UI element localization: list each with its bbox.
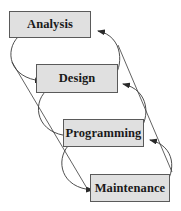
node-label-programming: Programming — [66, 126, 142, 141]
node-label-analysis: Analysis — [27, 17, 73, 32]
boundary-line-right — [118, 45, 172, 172]
forward-arrow-programming-maintenance — [62, 146, 93, 190]
node-maintenance: Maintenance — [90, 174, 170, 202]
node-label-design: Design — [59, 71, 96, 86]
node-label-maintenance: Maintenance — [95, 181, 166, 196]
node-analysis: Analysis — [9, 11, 91, 38]
node-programming: Programming — [63, 119, 144, 147]
node-design: Design — [36, 64, 118, 93]
waterfall-diagram: Analysis Design Programming Maintenance — [0, 0, 181, 211]
